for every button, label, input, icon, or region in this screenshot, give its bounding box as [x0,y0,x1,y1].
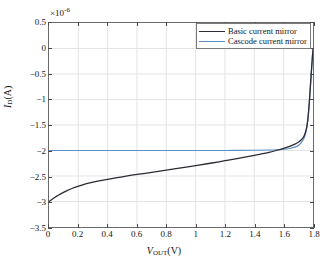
y-axis-tick-mark [48,22,52,23]
legend-label-cascode-current-mirror: Cascode current mirror [228,36,307,46]
y-axis-unit: (A) [2,86,13,100]
x-axis-tick-mark [137,224,138,228]
y-axis-tick-mark [48,228,52,229]
x-axis-tick-mark [314,22,315,26]
y-axis-title: ID(A) [2,86,14,108]
y-axis-tick-mark [310,202,314,203]
x-axis-tick-label: 0.6 [122,229,152,240]
y-axis-tick-mark [48,177,52,178]
x-axis-tick-label: 1.4 [240,229,270,240]
y-axis-tick-mark [48,48,52,49]
legend: Basic current mirror Cascode current mir… [196,23,311,49]
legend-label-basic-current-mirror: Basic current mirror [228,26,297,36]
x-axis-tick-mark [196,224,197,228]
y-axis-tick-label: −2 [6,146,46,156]
x-axis-tick-mark [78,224,79,228]
x-axis-tick-mark [107,22,108,26]
x-axis-tick-label: 0.4 [92,229,122,240]
x-axis-tick-label: 0.2 [63,229,93,240]
y-axis-tick-mark [48,99,52,100]
x-axis-tick-mark [107,224,108,228]
x-axis-tick-label: 1.2 [210,229,240,240]
x-axis-tick-label: 0.8 [151,229,181,240]
x-axis-tick-mark [78,22,79,26]
y-axis-tick-mark [310,99,314,100]
x-axis-subscript: OUT [153,249,167,257]
y-axis-tick-label: −2.5 [6,172,46,182]
y-axis-exponent-power: -6 [64,6,70,14]
y-axis-tick-label: −3.5 [6,223,46,233]
y-axis-tick-label: 0.5 [6,17,46,27]
gridlines [49,23,313,227]
x-axis-tick-mark [137,22,138,26]
y-axis-exponent-base: ×10 [50,8,64,18]
legend-item-cascode-current-mirror: Cascode current mirror [199,36,307,46]
y-axis-tick-mark [310,228,314,229]
x-axis-tick-mark [225,224,226,228]
plot-area [48,22,314,228]
x-axis-tick-label: 1 [181,229,211,240]
y-axis-tick-mark [48,202,52,203]
y-axis-tick-label: −0.5 [6,69,46,79]
x-axis-tick-mark [166,224,167,228]
x-axis-title: VOUT(V) [0,245,328,257]
x-axis-tick-mark [284,224,285,228]
y-axis-exponent-label: ×10-6 [50,6,70,18]
legend-item-basic-current-mirror: Basic current mirror [199,26,307,36]
y-axis-tick-label: 0 [6,43,46,53]
series-line-cascode-current-mirror [49,50,313,202]
y-axis-tick-mark [310,151,314,152]
y-axis-tick-mark [310,74,314,75]
x-axis-tick-mark [314,224,315,228]
x-axis-tick-mark [255,224,256,228]
x-axis-unit: (V) [167,245,181,256]
legend-swatch-cascode-current-mirror [199,41,225,42]
y-axis-tick-mark [48,125,52,126]
y-axis-tick-label: −3 [6,197,46,207]
series-line-basic-current-mirror [49,50,313,151]
y-axis-tick-mark [310,125,314,126]
x-axis-tick-label: 1.8 [299,229,328,240]
y-axis-tick-mark [48,151,52,152]
y-axis-symbol: I [2,105,13,108]
series-layer [49,23,313,227]
y-axis-tick-mark [310,177,314,178]
figure-canvas: ×10-6 00.20.40.60.811.21.41.61.80.50−0.5… [0,0,328,273]
x-axis-tick-mark [166,22,167,26]
y-axis-tick-label: −1.5 [6,120,46,130]
y-axis-subscript: D [6,100,14,105]
y-axis-tick-mark [48,74,52,75]
legend-swatch-basic-current-mirror [199,31,225,32]
x-axis-tick-label: 1.6 [269,229,299,240]
